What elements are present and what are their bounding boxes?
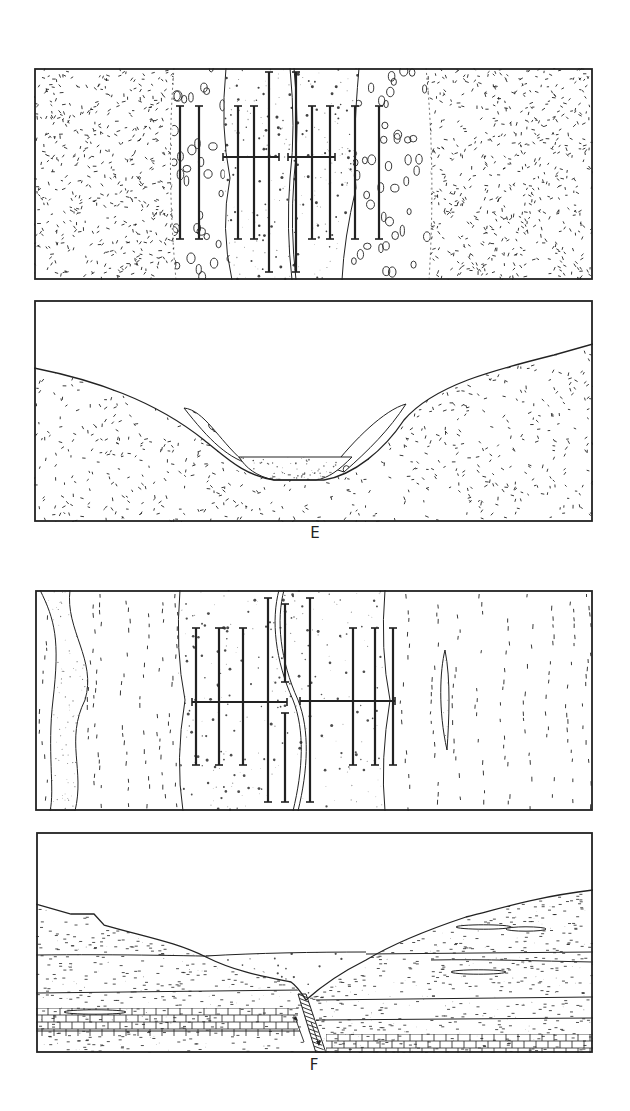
cross-section-e-drawing <box>34 300 593 522</box>
limestone-right <box>326 1034 593 1053</box>
terrace-symbols <box>176 72 383 272</box>
panel-f-section <box>36 832 593 1053</box>
shale-texture-right <box>400 594 591 811</box>
gravel <box>181 406 239 478</box>
map-view-e-drawing <box>34 68 593 280</box>
bedrock-texture-right <box>422 68 593 280</box>
bedrock-texture-left <box>34 68 180 280</box>
panel-frame <box>35 301 592 521</box>
map-view-f-drawing <box>35 590 593 811</box>
sand-lens <box>506 927 546 931</box>
caption-e: E <box>305 524 325 542</box>
cross-section-f-drawing <box>36 832 593 1053</box>
gravel-band-right <box>337 68 430 277</box>
terrace-symbols <box>192 598 397 802</box>
sand-lens <box>64 1010 126 1014</box>
panel-e-section <box>34 300 593 522</box>
terrace-gravel-left <box>184 408 254 465</box>
caption-f: F <box>304 1056 324 1074</box>
sand-lens <box>451 970 506 974</box>
panel-frame <box>35 69 592 279</box>
sandstone-band <box>40 590 88 811</box>
panel-e-map <box>34 68 593 280</box>
panel-f-map <box>35 590 593 811</box>
sand-lens <box>456 925 511 929</box>
floodplain-alluvium <box>239 457 352 480</box>
stream-channel <box>275 590 301 811</box>
stream-channel <box>288 68 293 280</box>
